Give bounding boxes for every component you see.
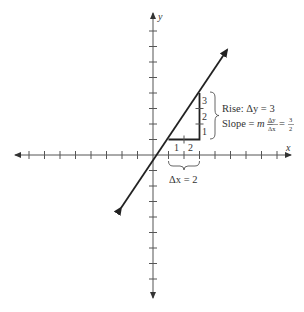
rise-tick-label-2: 2 [202,111,207,122]
slope-fraction-den: Δx [268,125,276,132]
rise-label: Rise: Δy = 3 [222,103,275,114]
slope-diagram: x y [0,0,304,312]
slope-equals-2: = [279,118,285,129]
slope-label: Slope = m = Δy Δx = 3 2 [222,116,294,132]
slope-fraction-num: Δy [268,116,276,123]
svg-text:Slope = m =: Slope = m = [222,118,273,129]
run-label: Δx = 2 [169,174,197,185]
slope-value-num: 3 [289,116,292,123]
rise-brace [210,92,219,139]
slope-prefix: Slope = [222,118,257,129]
run-tick-label-2: 2 [188,142,193,153]
run-brace [169,161,200,170]
rise-tick-label-1: 1 [202,126,207,137]
run-tick-label-1: 1 [174,142,179,153]
rise-tick-label-3: 3 [202,95,207,106]
slope-value-den: 2 [289,125,292,132]
slope-triangle: 1 2 3 2 1 [169,93,208,153]
y-axis-label: y [157,11,163,22]
x-axis-label: x [285,142,291,153]
